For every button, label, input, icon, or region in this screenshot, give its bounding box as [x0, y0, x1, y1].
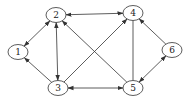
edge-2-3 [56, 22, 58, 80]
edge-6-4 [139, 19, 166, 44]
node-label: 5 [130, 83, 136, 93]
node-label: 2 [53, 10, 59, 20]
node-label: 6 [169, 45, 175, 55]
edge-2-4 [66, 13, 123, 14]
node-4: 4 [123, 6, 143, 21]
node-3: 3 [48, 81, 68, 96]
node-6: 6 [162, 43, 182, 58]
graph-diagram: 123456 [0, 0, 189, 99]
edge-2-1 [24, 21, 50, 46]
edges-layer [24, 13, 166, 88]
node-label: 3 [55, 83, 61, 93]
edge-5-6 [139, 56, 166, 82]
node-label: 4 [130, 8, 136, 18]
node-2: 2 [46, 8, 66, 23]
node-1: 1 [8, 45, 28, 60]
node-label: 1 [15, 47, 21, 57]
edge-3-4 [64, 19, 127, 82]
edge-3-1 [24, 58, 51, 82]
node-5: 5 [123, 81, 143, 96]
